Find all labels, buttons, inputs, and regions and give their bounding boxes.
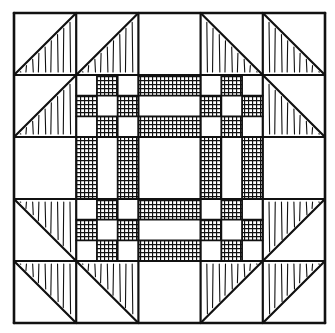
crosshatch-bar xyxy=(138,75,200,96)
shading-layer xyxy=(20,22,319,314)
hatch-line xyxy=(287,202,288,233)
hatch-line xyxy=(300,202,301,221)
hatch-line xyxy=(26,264,27,270)
hatch-line xyxy=(70,202,71,252)
hatch-line xyxy=(101,53,102,72)
hatch-line xyxy=(33,202,34,215)
hatch-line xyxy=(95,264,96,277)
hatch-line xyxy=(45,109,46,134)
hatch-line xyxy=(107,264,108,289)
hatch-line xyxy=(287,41,288,72)
hatch-line xyxy=(101,264,102,283)
hatch-line xyxy=(38,53,39,72)
crosshatch-bar xyxy=(118,137,139,199)
hatch-line xyxy=(33,121,34,134)
hatch-line xyxy=(269,22,270,72)
hatch-line xyxy=(275,90,276,134)
hatch-line xyxy=(125,264,126,308)
hatch-line xyxy=(213,264,214,308)
crosshatch-square xyxy=(201,96,222,117)
crosshatch-square xyxy=(118,96,139,117)
hatch-line xyxy=(113,264,114,295)
crosshatch-square xyxy=(242,96,263,117)
hatch-line xyxy=(287,264,288,295)
hatch-line xyxy=(38,202,39,221)
hatch-line xyxy=(113,41,114,72)
hatch-line xyxy=(33,59,34,72)
crosshatch-square xyxy=(221,75,242,96)
hatch-line xyxy=(237,264,238,283)
hatch-line xyxy=(281,97,282,134)
crosshatch-bar xyxy=(138,116,200,137)
hatch-line xyxy=(63,28,64,72)
crosshatch-square xyxy=(97,116,118,137)
hatch-line xyxy=(120,35,121,72)
crosshatch-square xyxy=(221,240,242,261)
hatch-line xyxy=(132,22,133,72)
hatch-line xyxy=(213,28,214,72)
hatch-line xyxy=(26,202,27,208)
hatch-line xyxy=(58,35,59,72)
crosshatch-square xyxy=(97,199,118,220)
hatch-line xyxy=(269,202,270,252)
hatch-line xyxy=(250,264,251,270)
hatch-line xyxy=(244,59,245,72)
hatch-line xyxy=(58,97,59,134)
hatch-line xyxy=(250,66,251,72)
crosshatch-square xyxy=(97,75,118,96)
hatch-line xyxy=(51,41,52,72)
hatch-line xyxy=(95,59,96,72)
hatch-line xyxy=(33,264,34,277)
hatch-line xyxy=(120,264,121,301)
hatch-line xyxy=(125,28,126,72)
hatch-line xyxy=(275,28,276,72)
hatch-line xyxy=(312,128,313,134)
hatch-line xyxy=(51,264,52,295)
hatch-line xyxy=(45,264,46,289)
hatch-line xyxy=(237,53,238,72)
hatch-line xyxy=(63,90,64,134)
hatch-line xyxy=(107,47,108,72)
hatch-line xyxy=(207,22,208,72)
hatch-line xyxy=(51,103,52,134)
hatch-line xyxy=(219,35,220,72)
hatch-line xyxy=(312,66,313,72)
crosshatch-bar xyxy=(138,199,200,220)
hatch-line xyxy=(294,202,295,227)
hatch-line xyxy=(306,59,307,72)
hatch-line xyxy=(225,264,226,295)
crosshatch-square xyxy=(76,220,97,241)
hatch-line xyxy=(219,264,220,301)
crosshatch-square xyxy=(242,220,263,241)
hatch-line xyxy=(275,264,276,308)
hatch-line xyxy=(225,41,226,72)
hatch-line xyxy=(300,53,301,72)
hatch-line xyxy=(300,115,301,134)
hatch-line xyxy=(70,22,71,72)
hatch-line xyxy=(312,264,313,270)
hatch-line xyxy=(306,202,307,215)
hatch-line xyxy=(63,264,64,308)
hatch-line xyxy=(132,264,133,314)
hatch-line xyxy=(281,202,282,239)
hatch-line xyxy=(207,264,208,314)
hatch-line xyxy=(45,202,46,227)
crosshatch-square xyxy=(97,240,118,261)
hatch-line xyxy=(294,264,295,289)
hatch-line xyxy=(281,35,282,72)
hatch-line xyxy=(269,84,270,134)
crosshatch-square xyxy=(118,220,139,241)
hatch-line xyxy=(63,202,64,246)
hatch-line xyxy=(88,66,89,72)
hatch-line xyxy=(306,264,307,277)
hatch-line xyxy=(26,66,27,72)
crosshatch-bar xyxy=(242,137,263,199)
hatch-line xyxy=(244,264,245,277)
quilt-block-drawing xyxy=(0,0,335,333)
hatch-line xyxy=(45,47,46,72)
hatch-line xyxy=(300,264,301,283)
hatch-line xyxy=(312,202,313,208)
hatch-line xyxy=(38,115,39,134)
hatch-line xyxy=(275,202,276,246)
hatch-line xyxy=(70,84,71,134)
